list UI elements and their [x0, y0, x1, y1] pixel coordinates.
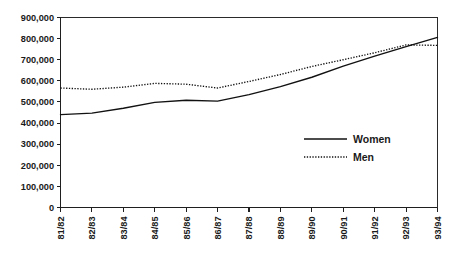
y-tick-label: 200,000: [21, 161, 54, 171]
x-tick-label: 90/91: [339, 217, 349, 240]
x-tick-label: 93/94: [433, 216, 443, 240]
x-tick-label: 88/89: [276, 217, 286, 240]
line-chart-figure: 0100,000200,000300,000400,000500,000600,…: [0, 0, 451, 261]
y-tick-label: 300,000: [21, 139, 54, 149]
x-tick-label: 91/92: [370, 217, 380, 240]
x-tick-label: 92/93: [401, 217, 411, 240]
legend-label-women: Women: [353, 133, 391, 145]
y-tick-label: 700,000: [21, 55, 54, 65]
chart-background: [0, 0, 451, 261]
y-tick-label: 400,000: [21, 118, 54, 128]
x-tick-label: 87/88: [244, 217, 254, 240]
y-tick-label: 100,000: [21, 182, 54, 192]
y-tick-label: 900,000: [21, 13, 54, 23]
legend-label-men: Men: [353, 151, 374, 163]
y-tick-label: 0: [49, 203, 54, 213]
y-tick-label: 500,000: [21, 97, 54, 107]
x-tick-label: 83/84: [119, 216, 129, 240]
x-tick-label: 84/85: [150, 217, 160, 240]
x-tick-label: 89/90: [307, 217, 317, 240]
x-tick-label: 81/82: [56, 217, 66, 240]
x-tick-label: 82/83: [87, 217, 97, 240]
y-tick-label: 600,000: [21, 76, 54, 86]
chart-canvas: 0100,000200,000300,000400,000500,000600,…: [0, 0, 451, 261]
x-tick-label: 86/87: [213, 217, 223, 240]
x-tick-label: 85/86: [182, 217, 192, 240]
y-tick-label: 800,000: [21, 34, 54, 44]
